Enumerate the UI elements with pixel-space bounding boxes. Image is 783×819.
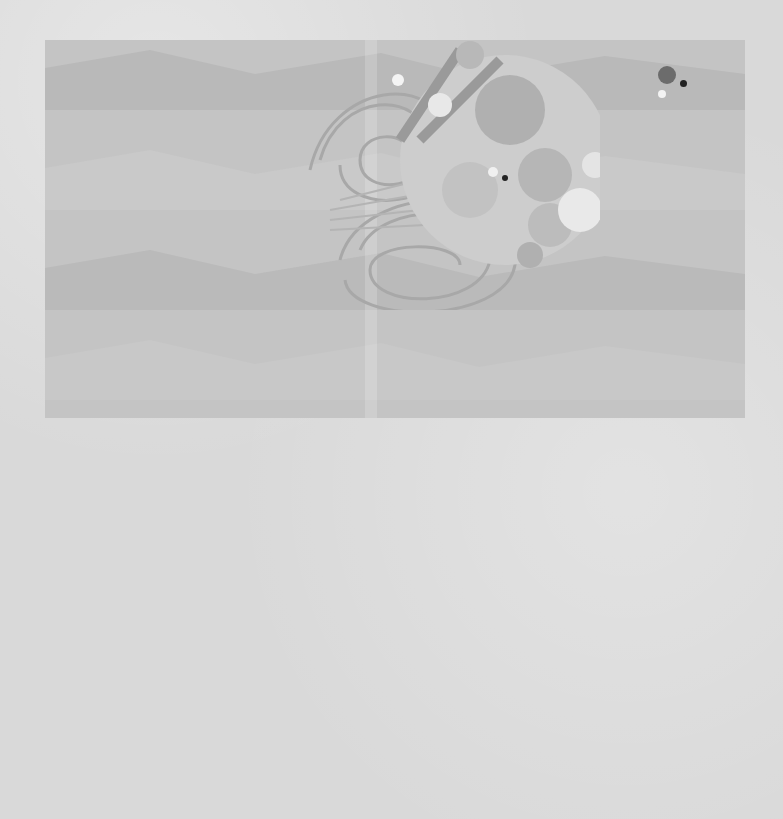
background-wave — [45, 340, 745, 400]
sound-cloud-illustration — [300, 30, 600, 310]
sound-dot — [658, 66, 676, 84]
sound-dot — [680, 80, 687, 87]
sound-dot — [658, 90, 666, 98]
